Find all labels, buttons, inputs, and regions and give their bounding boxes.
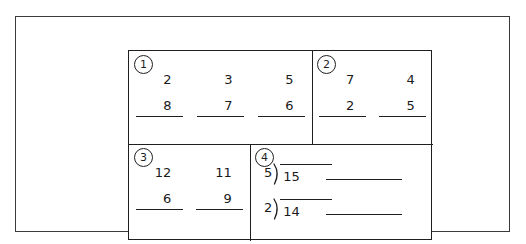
problem-row: 7 2 4 5 — [312, 73, 433, 117]
problem-top-number: 3 — [200, 73, 242, 86]
long-division-item: 2 14 — [264, 199, 433, 234]
problem-grid: 1 2 8 3 7 5 6 — [128, 50, 432, 240]
answer-rule[interactable] — [196, 209, 243, 210]
problem-row: 2 8 3 7 5 6 — [129, 73, 312, 117]
problem-item: 2 8 — [129, 73, 190, 117]
answer-rule[interactable] — [136, 116, 183, 117]
problem-box-2: 2 7 2 4 5 — [312, 51, 433, 144]
problem-item: 4 5 — [373, 73, 434, 117]
answer-rule[interactable] — [258, 116, 305, 117]
problem-item: 12 6 — [129, 166, 190, 210]
problem-box-4: 4 5 15 — [250, 144, 433, 241]
problem-bottom-number: 6 — [138, 192, 180, 205]
division-bracket-icon: 14 — [273, 199, 300, 221]
problem-item: 7 2 — [312, 73, 373, 117]
problem-top-number: 5 — [261, 73, 303, 86]
division-overbar — [280, 164, 332, 165]
problem-item: 5 6 — [251, 73, 312, 117]
problem-bottom-number: 8 — [139, 99, 181, 112]
division-overbar — [280, 199, 332, 200]
problem-box-1: 1 2 8 3 7 5 6 — [129, 51, 312, 144]
box-number-badge: 1 — [134, 55, 153, 74]
problem-top-number: 12 — [138, 166, 180, 179]
problem-bottom-number: 2 — [321, 99, 363, 112]
answer-rule[interactable] — [136, 209, 183, 210]
divisor: 5 — [264, 164, 273, 182]
dividend-wrap: 15 — [281, 164, 300, 186]
problem-item: 11 9 — [190, 166, 251, 210]
division-bracket-curve-icon — [273, 199, 281, 219]
problem-bottom-number: 5 — [382, 99, 424, 112]
problem-box-3: 3 12 6 11 9 — [129, 144, 250, 241]
page-border: 1 2 8 3 7 5 6 — [15, 16, 510, 232]
problem-top-number: 11 — [199, 166, 241, 179]
box-number-badge: 3 — [134, 148, 153, 167]
answer-rule[interactable] — [326, 179, 402, 180]
long-division-item: 5 15 — [264, 164, 433, 199]
answer-rule[interactable] — [197, 116, 244, 117]
division-bracket-icon: 15 — [273, 164, 300, 186]
problem-item: 3 7 — [190, 73, 251, 117]
dividend-wrap: 14 — [281, 199, 300, 221]
problem-bottom-number: 6 — [261, 99, 303, 112]
answer-rule[interactable] — [379, 116, 426, 117]
answer-rule[interactable] — [319, 116, 366, 117]
answer-rule[interactable] — [326, 214, 402, 215]
problem-top-number: 7 — [321, 73, 363, 86]
long-division-list: 5 15 2 — [264, 164, 433, 234]
problem-top-number: 4 — [382, 73, 424, 86]
box-number-badge: 2 — [317, 55, 336, 74]
division-bracket-curve-icon — [273, 164, 281, 184]
problem-top-number: 2 — [139, 73, 181, 86]
worksheet-page: 1 2 8 3 7 5 6 — [0, 0, 526, 244]
problem-row: 12 6 11 9 — [129, 166, 250, 210]
dividend: 14 — [281, 202, 300, 219]
problem-bottom-number: 7 — [200, 99, 242, 112]
problem-bottom-number: 9 — [199, 192, 241, 205]
dividend: 15 — [281, 167, 300, 184]
divisor: 2 — [264, 199, 273, 217]
